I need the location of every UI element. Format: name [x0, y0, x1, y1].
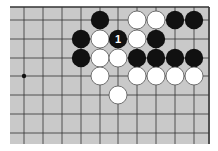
white-stone-icon [185, 67, 203, 85]
white-stone-icon [128, 67, 146, 85]
black-stone-icon [147, 49, 165, 67]
black-stone-icon [147, 30, 165, 48]
white-stone-icon [166, 67, 184, 85]
black-stone-icon [166, 49, 184, 67]
black-stone-icon [185, 11, 203, 29]
white-stone-icon [91, 30, 109, 48]
white-stone-icon [147, 67, 165, 85]
white-stone-icon [147, 11, 165, 29]
white-stone-icon [91, 49, 109, 67]
white-stone-icon [109, 49, 127, 67]
black-stone-icon [185, 49, 203, 67]
black-stone-icon [166, 11, 184, 29]
white-stone-icon [109, 86, 127, 104]
white-stone-icon [128, 30, 146, 48]
go-board-grid: 1 [0, 0, 218, 151]
black-stone-icon [72, 49, 90, 67]
black-stone-icon [72, 30, 90, 48]
move-number-label: 1 [115, 33, 121, 45]
black-stone-icon [91, 11, 109, 29]
star-point-icon [22, 74, 26, 78]
white-stone-icon [91, 67, 109, 85]
black-stone-icon [128, 49, 146, 67]
white-stone-icon [128, 11, 146, 29]
